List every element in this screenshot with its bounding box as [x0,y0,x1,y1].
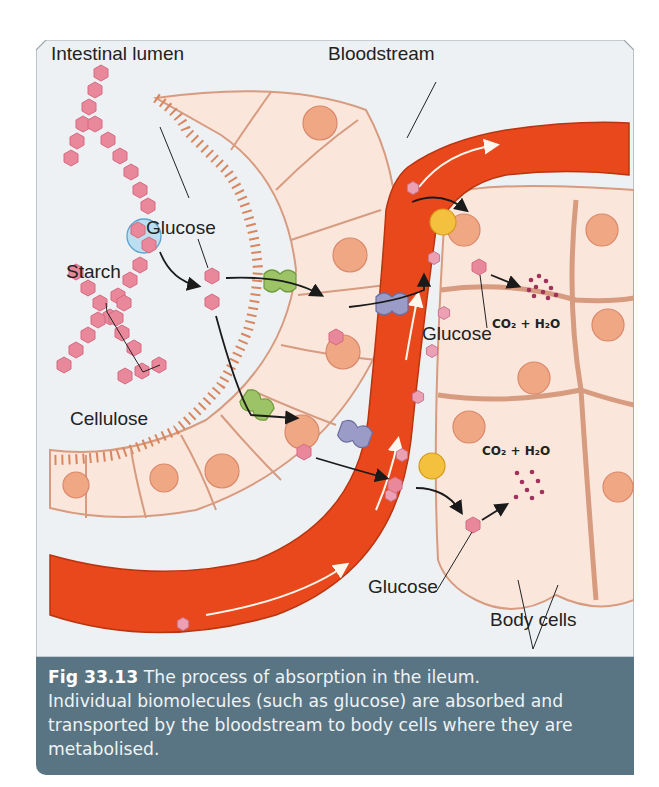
label-co2-h2o-lower: CO₂ + H₂O [482,444,550,458]
label-body-cells: Body cells [490,609,577,630]
label-co2-h2o-upper: CO₂ + H₂O [492,317,560,331]
body-cells-cluster [436,186,634,609]
label-cellulose: Cellulose [70,408,148,429]
figure-number: Fig 33.13 [48,667,138,687]
figure-caption: Fig 33.13 The process of absorption in t… [36,657,634,775]
label-intestinal-lumen: Intestinal lumen [51,43,184,64]
caption-body: Individual biomolecules (such as glucose… [48,691,572,759]
caption-lead: The process of absorption in the ileum. [138,667,480,687]
figure-absorption-ileum: Intestinal lumen Bloodstream Glucose Sta… [36,40,634,775]
label-glucose-cell-lower: Glucose [368,576,438,597]
label-glucose-cell-upper: Glucose [422,323,492,344]
label-bloodstream: Bloodstream [328,43,435,64]
label-starch: Starch [66,261,121,282]
label-glucose-lumen: Glucose [146,217,216,238]
